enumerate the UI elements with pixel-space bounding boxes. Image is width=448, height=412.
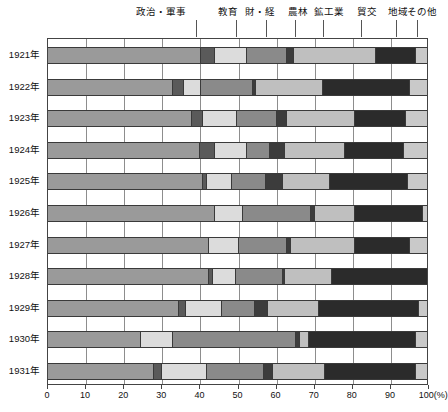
bar-segment-その他 [416,48,427,63]
bar-segment-その他 [416,364,427,379]
bar-segment-地域 [355,238,410,253]
stacked-bar-1921年 [48,47,427,64]
bar-segment-教育 [201,48,214,63]
x-tick-label-60: 60 [271,390,281,401]
x-tick-90 [390,385,391,389]
x-tick-100 [428,385,429,389]
category-label-0: 政治・軍事 [136,6,186,17]
bar-segment-その他 [406,111,427,126]
stacked-bar-1927年 [48,237,427,254]
stacked-bar-1923年 [48,110,427,127]
bar-segment-その他 [416,332,427,347]
x-tick-80 [352,385,353,389]
y-axis-label-1923年: 1923年 [9,112,40,123]
bar-segment-貿交 [285,143,346,158]
x-tick-50 [238,385,239,389]
x-tick-label-20: 20 [118,390,128,401]
y-axis-year-labels: 1921年1922年1923年1924年1925年1926年1927年1928年… [0,38,45,385]
bar-segment-地域 [323,80,410,95]
bar-segment-農林 [232,174,266,189]
bar-segment-財・経 [162,364,207,379]
x-tick-label-70: 70 [309,390,319,401]
bar-segment-政治・軍事 [48,301,179,316]
bar-segment-貿交 [256,80,322,95]
bar-segment-地域 [309,332,415,347]
bar-segment-政治・軍事 [48,332,141,347]
bar-segment-政治・軍事 [48,269,209,284]
bar-row [48,363,427,380]
bar-segment-財・経 [141,332,173,347]
bar-segment-地域 [325,364,416,379]
bar-segment-貿交 [287,111,355,126]
stacked-bar-1926年 [48,205,427,222]
x-tick-label-100: 100(%) [419,390,448,401]
bar-segment-財・経 [184,80,201,95]
category-label-2: 財・経 [245,6,275,17]
bar-segment-貿交 [283,174,330,189]
bar-segment-農林 [247,143,270,158]
bar-segment-政治・軍事 [48,48,201,63]
bar-segment-地域 [345,143,404,158]
bar-segment-財・経 [209,238,239,253]
bar-segment-貿交 [294,48,375,63]
bar-segment-鉱工業 [287,48,295,63]
bar-segment-教育 [192,111,203,126]
x-tick-10 [85,385,86,389]
bar-segment-農林 [237,111,277,126]
bar-rows [48,39,427,384]
x-tick-30 [161,385,162,389]
bar-segment-政治・軍事 [48,80,173,95]
x-tick-60 [276,385,277,389]
y-axis-label-1924年: 1924年 [9,144,40,155]
bar-segment-農林 [201,80,252,95]
y-axis-label-1929年: 1929年 [9,302,40,313]
bar-segment-政治・軍事 [48,364,154,379]
x-tick-20 [123,385,124,389]
y-axis-label-1928年: 1928年 [9,270,40,281]
bar-segment-鉱工業 [264,364,273,379]
bar-segment-農林 [207,364,264,379]
bar-row [48,237,427,254]
category-leader-line-4 [323,20,324,37]
bar-segment-農林 [239,238,286,253]
bar-segment-農林 [173,332,296,347]
bar-row [48,268,427,285]
bar-segment-その他 [423,206,427,221]
stacked-bar-1924年 [48,142,427,159]
x-tick-label-50: 50 [232,390,242,401]
category-label-5: 貿交 [357,6,377,17]
category-leader-line-1 [236,20,237,37]
bar-segment-地域 [330,174,408,189]
bar-segment-教育 [173,80,184,95]
stacked-bar-1929年 [48,300,427,317]
bar-segment-その他 [419,301,427,316]
bar-row [48,173,427,190]
bar-segment-財・経 [215,206,243,221]
bar-segment-教育 [179,301,187,316]
bar-segment-貿交 [285,269,332,284]
bar-segment-政治・軍事 [48,111,192,126]
y-axis-label-1925年: 1925年 [9,175,40,186]
bar-segment-政治・軍事 [48,174,203,189]
bar-row [48,110,427,127]
bar-segment-財・経 [215,48,247,63]
bar-segment-財・経 [207,174,232,189]
category-leader-line-6 [396,20,397,37]
bar-segment-地域 [319,301,419,316]
bar-segment-財・経 [215,143,247,158]
y-axis-label-1926年: 1926年 [9,207,40,218]
bar-segment-地域 [355,111,406,126]
plot-area [47,38,428,385]
bar-segment-鉱工業 [270,143,285,158]
x-tick-label-40: 40 [194,390,204,401]
bar-row [48,300,427,317]
bar-segment-財・経 [203,111,237,126]
bar-segment-貿交 [300,332,309,347]
stacked-bar-1922年 [48,79,427,96]
bar-segment-政治・軍事 [48,238,209,253]
bar-segment-農林 [247,48,287,63]
bar-segment-政治・軍事 [48,206,215,221]
y-axis-label-1927年: 1927年 [9,239,40,250]
bar-segment-財・経 [213,269,236,284]
category-label-4: 鉱工業 [314,6,344,17]
